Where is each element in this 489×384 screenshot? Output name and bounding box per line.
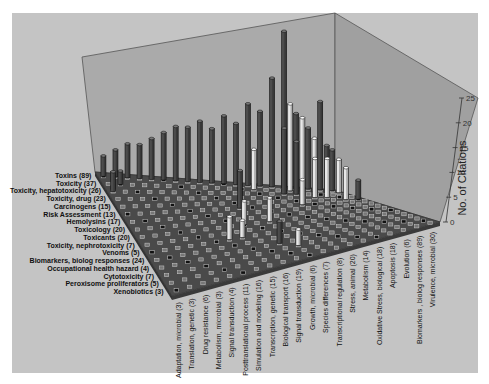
- cell-marker: [225, 207, 229, 210]
- bar: [296, 228, 301, 246]
- cell-marker: [281, 209, 285, 212]
- cell-marker: [238, 250, 242, 253]
- x-category-label: Biomarkers , biolog responses (89): [416, 236, 424, 345]
- bar: [300, 178, 305, 204]
- cell-marker: [181, 216, 185, 219]
- cell-marker: [178, 231, 182, 234]
- bar: [197, 120, 202, 183]
- cell-marker: [382, 229, 386, 232]
- cell-marker: [289, 252, 293, 255]
- cell-marker: [196, 236, 200, 239]
- bar: [294, 140, 299, 194]
- cell-marker: [163, 249, 167, 252]
- cell-marker: [225, 252, 229, 255]
- cell-marker: [330, 231, 334, 234]
- cell-marker: [304, 236, 308, 239]
- cell-marker: [116, 197, 120, 200]
- cell-marker: [233, 244, 237, 247]
- cell-marker: [249, 217, 253, 220]
- x-category-label: Virulence, microbial (30): [429, 232, 437, 307]
- bar: [209, 127, 214, 183]
- cell-marker: [204, 228, 208, 231]
- cell-marker: [167, 185, 171, 188]
- x-category-label: Metabolism, microbial (3): [215, 291, 223, 369]
- cell-marker: [305, 225, 309, 228]
- cell-marker: [285, 234, 289, 237]
- cell-marker: [306, 215, 310, 218]
- cell-marker: [179, 185, 183, 188]
- cell-marker: [155, 184, 159, 187]
- cell-marker: [293, 217, 297, 220]
- bar: [336, 158, 341, 193]
- cell-marker: [145, 243, 149, 246]
- cell-marker: [206, 214, 210, 217]
- cell-marker: [135, 228, 139, 231]
- cell-marker: [270, 250, 274, 253]
- cell-marker: [369, 215, 373, 218]
- cell-marker: [382, 220, 386, 223]
- cell-marker: [349, 232, 353, 235]
- cell-marker: [163, 211, 167, 214]
- cell-marker: [138, 212, 142, 215]
- cell-marker: [123, 190, 127, 193]
- bar: [330, 149, 335, 191]
- cell-marker: [246, 241, 250, 244]
- cell-marker: [337, 196, 341, 199]
- cell-marker: [191, 268, 195, 271]
- cell-marker: [130, 183, 134, 186]
- cell-marker: [232, 202, 236, 205]
- cell-marker: [275, 205, 279, 208]
- cell-marker: [236, 265, 240, 268]
- cell-marker: [382, 213, 386, 216]
- x-category-label: Posttranslational process (11): [242, 284, 250, 376]
- x-category-label: Signal transduction (4): [228, 287, 236, 357]
- cell-marker: [188, 209, 192, 212]
- cell-marker: [251, 196, 255, 199]
- cell-marker: [331, 212, 335, 215]
- cell-marker: [321, 250, 325, 253]
- cell-marker: [211, 220, 215, 223]
- x-category-label: Adaptation, microbial (3): [175, 302, 183, 378]
- cell-marker: [312, 219, 316, 222]
- cell-marker: [215, 186, 219, 189]
- cell-marker: [331, 193, 335, 196]
- cell-marker: [402, 220, 406, 223]
- cell-marker: [150, 211, 154, 214]
- x-category-label: Growth, microbial (6): [309, 265, 317, 330]
- cell-marker: [338, 201, 342, 204]
- cell-marker: [106, 182, 110, 185]
- cell-marker: [128, 197, 132, 200]
- cell-marker: [153, 234, 157, 237]
- cell-marker: [319, 199, 323, 202]
- cell-marker: [355, 235, 359, 238]
- cell-marker: [361, 239, 365, 242]
- bar: [267, 197, 272, 222]
- cell-marker: [363, 200, 367, 203]
- cell-marker: [182, 278, 186, 281]
- bar: [125, 142, 130, 177]
- cell-marker: [160, 191, 164, 194]
- cell-marker: [203, 186, 207, 189]
- cell-marker: [337, 216, 341, 219]
- cell-marker: [323, 238, 327, 241]
- cell-marker: [376, 204, 380, 207]
- cell-marker: [368, 232, 372, 235]
- x-category-label: Drug resistance (6): [202, 295, 210, 355]
- cell-marker: [196, 191, 200, 194]
- cell-marker: [331, 205, 335, 208]
- x-category-label: Transcription, genetic (15): [269, 276, 277, 357]
- z-axis-title: No. of Citations: [456, 140, 468, 216]
- cell-marker: [204, 265, 208, 268]
- cell-marker: [173, 263, 177, 266]
- cell-marker: [276, 189, 280, 192]
- 3d-bar-chart: 0510152025 Toxins (89)Toxicity (37)Toxic…: [0, 0, 489, 384]
- cell-marker: [362, 229, 366, 232]
- cell-marker: [318, 214, 322, 217]
- cell-marker: [254, 267, 258, 270]
- cell-marker: [231, 213, 235, 216]
- cell-marker: [389, 215, 393, 218]
- bar: [227, 215, 232, 239]
- cell-marker: [245, 192, 249, 195]
- cell-marker: [306, 207, 310, 210]
- cell-marker: [356, 217, 360, 220]
